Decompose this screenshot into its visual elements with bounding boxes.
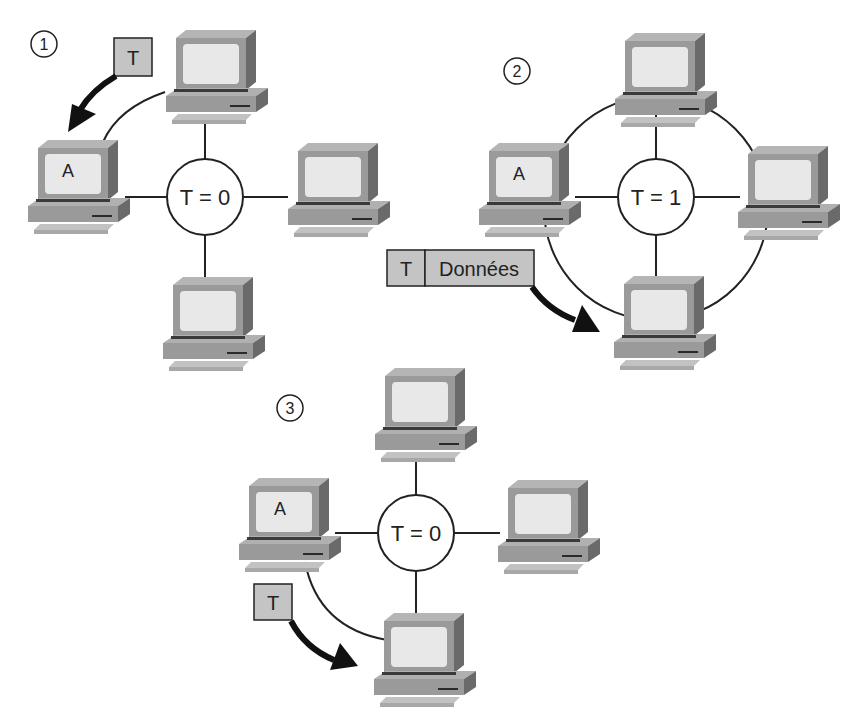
step-number: 2 (513, 63, 522, 80)
hub-label: T = 0 (391, 521, 441, 546)
station-a (479, 143, 581, 237)
station-a (239, 478, 341, 572)
station-bottom (614, 276, 716, 370)
station-a-label: A (513, 164, 525, 184)
step-number: 1 (40, 36, 49, 53)
step-number: 3 (286, 400, 295, 417)
station-top (615, 33, 717, 127)
frame-token-label: T (400, 258, 412, 280)
station-a-label: A (62, 161, 74, 181)
frame-data-label: Données (439, 258, 519, 280)
station-right (288, 143, 390, 237)
panel-2: T = 1 A 2 T Données (387, 33, 840, 370)
station-a (28, 140, 130, 234)
station-top (166, 30, 268, 124)
token-ring-diagram: T = 0 A 1 T T = 1 A 2 (0, 0, 860, 728)
panel-3: T = 0 A 3 T (239, 368, 600, 707)
arrow-icon (80, 76, 116, 110)
arrow-icon (291, 621, 334, 660)
station-bottom (163, 277, 265, 371)
station-bottom (374, 613, 476, 707)
station-right (738, 146, 840, 240)
arrow-icon (532, 287, 575, 320)
station-a-label: A (274, 499, 286, 519)
hub-label: T = 0 (180, 185, 230, 210)
station-right (498, 480, 600, 574)
token-label: T (127, 47, 139, 69)
token-label: T (267, 592, 279, 614)
panel-1: T = 0 A 1 T (28, 30, 390, 371)
station-top (375, 368, 477, 462)
hub-label: T = 1 (631, 185, 681, 210)
